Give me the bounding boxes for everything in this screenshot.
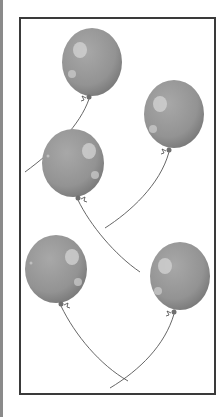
balloon-3	[42, 129, 104, 202]
balloon-5	[150, 242, 210, 316]
balloon-scene	[0, 0, 224, 417]
balloon-4	[25, 235, 87, 308]
balloon-2	[144, 80, 204, 154]
string-balloon-5	[110, 314, 174, 388]
string-balloon-2	[105, 152, 169, 228]
string-balloon-4	[61, 306, 128, 381]
balloon-1	[62, 28, 122, 101]
string-balloon-3	[78, 200, 140, 272]
